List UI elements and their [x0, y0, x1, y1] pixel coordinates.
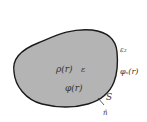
surface-potential-label: φₛ(r): [120, 67, 138, 76]
charge-density-label: ρ(r): [55, 64, 73, 74]
surface-label: S: [106, 92, 112, 102]
electrostatics-region-diagram: ρ(r) ε φ(r) ε₂ φₛ(r) S n̂: [0, 0, 147, 122]
permittivity-inside-label: ε: [81, 65, 85, 74]
normal-vector-line: [98, 98, 104, 105]
potential-label: φ(r): [65, 83, 83, 93]
normal-vector-label: n̂: [103, 109, 108, 117]
permittivity-outside-label: ε₂: [120, 46, 127, 54]
